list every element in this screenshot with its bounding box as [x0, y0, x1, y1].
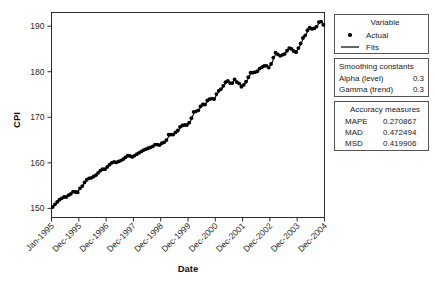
- plot-frame: [52, 13, 325, 218]
- accuracy-label-mape: MAPE: [345, 117, 368, 126]
- data-point: [80, 184, 84, 188]
- data-point: [196, 109, 200, 113]
- accuracy-title: Accuracy measures: [350, 105, 420, 114]
- y-tick-label: 180: [30, 67, 44, 77]
- cpi-trend-analysis-chart: 150160170180190 Jan-1995Dec-1995Dec-1996…: [0, 0, 435, 288]
- data-point: [294, 50, 298, 54]
- x-axis-title: Date: [178, 263, 199, 274]
- smoothing-label-gamma: Gamma (trend): [339, 85, 394, 94]
- x-tick-label: Dec-2004: [296, 221, 329, 254]
- legend-title: Variable: [371, 18, 400, 27]
- data-point: [269, 62, 273, 66]
- data-point: [212, 97, 216, 101]
- data-point: [237, 82, 241, 86]
- legend-label-fits: Fits: [366, 43, 379, 52]
- y-axis-title: CPI: [11, 112, 22, 128]
- legend-panel: Variable Actual Fits: [335, 15, 429, 54]
- data-point: [221, 84, 225, 88]
- y-tick-label: 170: [30, 112, 44, 122]
- data-point: [164, 138, 168, 142]
- data-point: [315, 25, 319, 29]
- data-point: [244, 80, 248, 84]
- smoothing-title: Smoothing constants: [339, 62, 414, 71]
- data-point: [319, 20, 323, 24]
- chart-root: 150160170180190 Jan-1995Dec-1995Dec-1996…: [0, 0, 435, 288]
- data-point: [242, 83, 246, 87]
- data-point: [321, 23, 325, 27]
- data-point: [190, 116, 194, 120]
- accuracy-label-mad: MAD: [345, 128, 363, 137]
- accuracy-label-msd: MSD: [345, 139, 363, 148]
- data-point: [299, 42, 303, 46]
- data-point: [246, 75, 250, 79]
- data-point: [230, 81, 234, 85]
- accuracy-value-mape: 0.270867: [383, 117, 417, 126]
- data-point: [203, 103, 207, 107]
- y-tick-label: 190: [30, 21, 44, 31]
- data-point: [76, 191, 80, 195]
- y-axis-ticks: 150160170180190: [30, 21, 51, 213]
- fits-line: [53, 22, 324, 208]
- data-point: [219, 87, 223, 91]
- data-point: [296, 46, 300, 50]
- data-point: [303, 33, 307, 37]
- data-series-group: [51, 20, 326, 209]
- y-tick-label: 150: [30, 203, 44, 213]
- data-point: [271, 56, 275, 60]
- x-axis-ticks: Jan-1995Dec-1995Dec-1996Dec-1997Dec-1998…: [24, 218, 329, 254]
- smoothing-constants-panel: Smoothing constants Alpha (level) 0.3 Ga…: [335, 59, 429, 97]
- smoothing-value-gamma: 0.3: [413, 85, 425, 94]
- legend-dot-icon: [348, 33, 352, 37]
- smoothing-value-alpha: 0.3: [413, 74, 425, 83]
- accuracy-measures-panel: Accuracy measures MAPE 0.270867 MAD 0.47…: [335, 102, 429, 151]
- actual-markers: [51, 20, 326, 209]
- y-tick-label: 160: [30, 158, 44, 168]
- accuracy-value-msd: 0.419906: [383, 139, 417, 148]
- data-point: [215, 92, 219, 96]
- accuracy-value-mad: 0.472494: [383, 128, 417, 137]
- data-point: [283, 52, 287, 56]
- legend-label-actual: Actual: [366, 31, 388, 40]
- data-point: [187, 121, 191, 125]
- smoothing-label-alpha: Alpha (level): [339, 74, 384, 83]
- data-point: [176, 129, 180, 133]
- data-point: [267, 66, 271, 70]
